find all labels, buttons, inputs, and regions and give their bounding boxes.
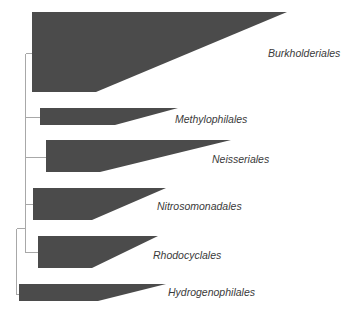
clade-nitrosomonadales bbox=[33, 188, 166, 220]
clade-methylophilales bbox=[40, 108, 178, 125]
clade-label-nitrosomonadales: Nitrosomonadales bbox=[157, 200, 242, 212]
clade-hydrogenophilales bbox=[19, 284, 166, 301]
clade-label-rhodocyclales: Rhodocyclales bbox=[153, 249, 221, 261]
clade-rhodocyclales bbox=[38, 236, 158, 268]
clade-label-methylophilales: Methylophilales bbox=[175, 113, 247, 125]
clade-burkholderiales bbox=[32, 12, 287, 92]
clade-label-neisseriales: Neisseriales bbox=[212, 153, 269, 165]
clade-label-burkholderiales: Burkholderiales bbox=[268, 47, 340, 59]
clade-neisseriales bbox=[46, 140, 231, 172]
clade-label-hydrogenophilales: Hydrogenophilales bbox=[168, 286, 255, 298]
